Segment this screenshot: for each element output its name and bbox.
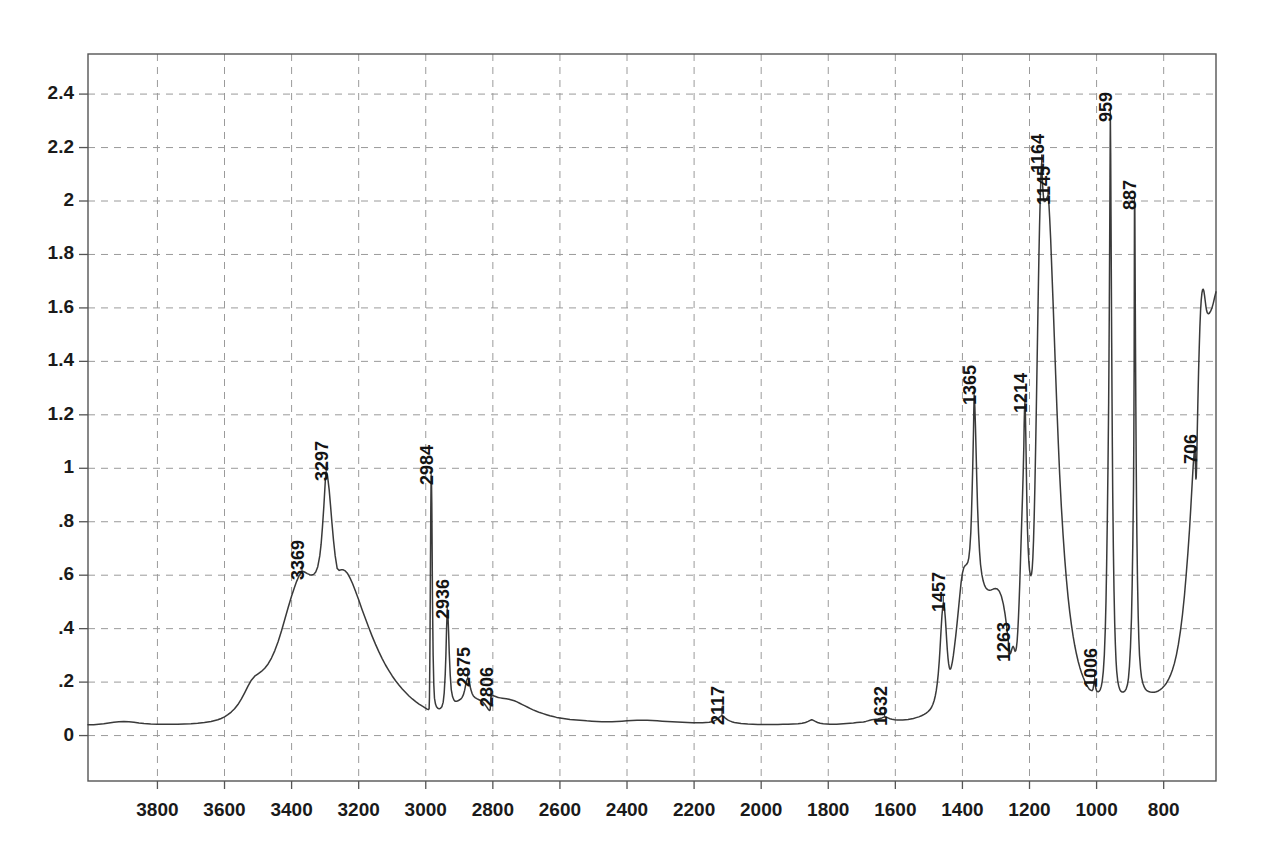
y-axis-tick-label: 2	[63, 189, 74, 211]
peak-label: 1145	[1034, 166, 1055, 205]
y-axis-tick-label: 0	[63, 724, 74, 746]
y-axis-tick-label: 2.2	[48, 136, 74, 158]
y-axis-tick-label: .2	[58, 670, 74, 692]
peak-label: 2806	[477, 667, 498, 707]
y-axis-tick-label: .4	[58, 617, 74, 639]
y-axis-tick-label: .8	[58, 510, 74, 532]
y-axis-tick-label: 1.4	[48, 349, 74, 371]
peak-label: 706	[1181, 434, 1202, 464]
ir-spectrum-chart: 0.2.4.6.811.21.41.61.822.22.438003600340…	[0, 0, 1264, 846]
peak-label: 887	[1120, 180, 1141, 210]
y-axis-tick-label: 1	[63, 456, 74, 478]
y-axis-tick-label: 2.4	[48, 82, 74, 104]
y-axis-tick-label: 1.6	[48, 296, 74, 318]
peak-label: 2117	[708, 685, 729, 724]
peak-label: 1006	[1081, 648, 1102, 688]
peak-label: 1457	[929, 572, 950, 612]
y-axis-tick-label: 1.8	[48, 242, 74, 264]
x-axis-tick-label: 800	[1124, 799, 1204, 821]
y-axis-tick-label: .6	[58, 563, 74, 585]
peak-label: 1214	[1011, 373, 1032, 413]
y-axis-tick-label: 1.2	[48, 403, 74, 425]
peak-label: 1365	[960, 365, 981, 405]
peak-label: 2984	[417, 445, 438, 485]
peak-label: 959	[1096, 92, 1117, 122]
peak-label: 3297	[312, 441, 333, 481]
peak-label: 1632	[871, 686, 892, 726]
peak-label: 1263	[994, 622, 1015, 662]
peak-label: 2875	[454, 647, 475, 687]
peak-label: 2936	[433, 579, 454, 619]
peak-label: 3369	[288, 540, 309, 580]
spectrum-plot-area	[0, 0, 1264, 846]
